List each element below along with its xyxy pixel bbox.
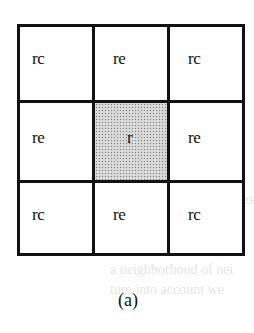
cell-label: rc (188, 49, 200, 69)
cell-corner-top-right: rc (170, 27, 242, 103)
cell-corner-bottom-left: rc (20, 183, 95, 253)
neighborhood-grid: rc re rc re r re rc re rc (17, 24, 245, 256)
cell-center-shaded: r (95, 103, 170, 183)
cell-edge-top: re (95, 27, 170, 103)
cell-label: rc (32, 49, 44, 69)
cell-label: re (113, 205, 125, 225)
cell-label: r (127, 128, 132, 148)
cell-edge-right: re (170, 103, 242, 183)
cell-corner-top-left: rc (20, 27, 95, 103)
cell-label: re (113, 49, 125, 69)
cell-corner-bottom-right: rc (170, 183, 242, 253)
cell-edge-left: re (20, 103, 95, 183)
cell-label: rc (32, 205, 44, 225)
cell-label: rc (188, 205, 200, 225)
figure-caption: (a) (118, 290, 138, 311)
cell-edge-bottom: re (95, 183, 170, 253)
bleed-through-text: a neighborhood of nei (110, 262, 233, 278)
cell-label: re (32, 128, 44, 148)
cell-label: re (188, 128, 200, 148)
